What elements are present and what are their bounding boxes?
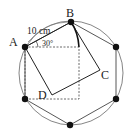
angle-arc xyxy=(36,41,38,47)
vertex-a-dot xyxy=(22,44,28,50)
label-a: A xyxy=(9,35,18,49)
label-d: D xyxy=(38,88,47,102)
geometry-diagram: B A C D 10 cm 30° xyxy=(0,0,134,133)
label-angle: 30° xyxy=(42,39,53,48)
label-length: 10 cm xyxy=(27,26,51,36)
vertex-lower-right-dot xyxy=(113,96,119,102)
label-b: B xyxy=(66,6,74,20)
label-c: C xyxy=(101,68,109,82)
vertex-upper-right-dot xyxy=(113,44,119,50)
vertex-bottom-dot xyxy=(67,122,73,128)
vertex-lower-left-dot xyxy=(22,96,28,102)
dashed-rectangle xyxy=(25,47,79,99)
